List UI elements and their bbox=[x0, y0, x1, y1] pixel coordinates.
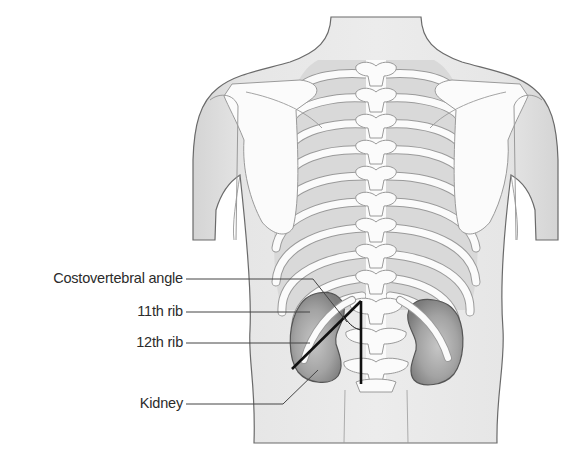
label-11th-rib: 11th rib bbox=[137, 303, 183, 319]
label-kidney: Kidney bbox=[140, 395, 183, 411]
label-costovertebral-angle: Costovertebral angle bbox=[53, 270, 183, 286]
label-12th-rib: 12th rib bbox=[136, 334, 183, 350]
posterior-torso-diagram bbox=[0, 0, 579, 458]
